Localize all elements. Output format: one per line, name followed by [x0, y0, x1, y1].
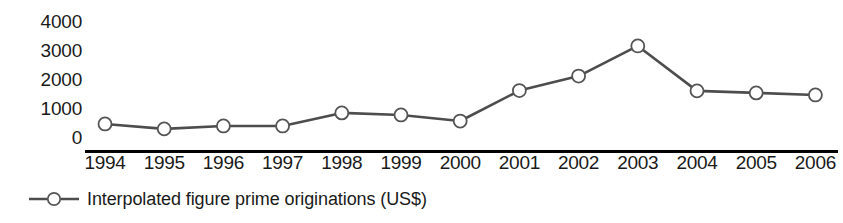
data-point-1998 — [335, 106, 348, 119]
x-tick-label-1996: 1996 — [193, 152, 253, 174]
y-tick-label-0: 0 — [26, 128, 82, 147]
x-tick-label-1994: 1994 — [75, 152, 135, 174]
data-point-2005 — [750, 86, 763, 99]
data-point-2004 — [691, 84, 704, 97]
data-point-1996 — [217, 119, 230, 132]
data-point-2002 — [572, 70, 585, 83]
data-point-1995 — [158, 122, 171, 135]
data-point-2001 — [513, 84, 526, 97]
data-point-1997 — [276, 119, 289, 132]
x-tick-label-2002: 2002 — [549, 152, 609, 174]
y-tick-label-2000: 2000 — [26, 70, 82, 89]
line-chart-svg — [0, 0, 843, 165]
y-axis-tick-labels: 4000 3000 2000 1000 0 — [26, 0, 82, 165]
data-point-1994 — [99, 117, 112, 130]
x-tick-label-2000: 2000 — [430, 152, 490, 174]
legend-label: Interpolated figure prime originations (… — [87, 189, 427, 209]
y-tick-label-3000: 3000 — [26, 41, 82, 60]
data-point-2003 — [631, 39, 644, 52]
x-axis-tick-labels: 1994199519961997199819992000200120022003… — [0, 152, 843, 178]
legend-marker-icon — [28, 190, 80, 208]
x-tick-label-2004: 2004 — [667, 152, 727, 174]
x-tick-label-1995: 1995 — [134, 152, 194, 174]
x-tick-label-1998: 1998 — [312, 152, 372, 174]
x-tick-label-2006: 2006 — [785, 152, 843, 174]
series-markers — [99, 39, 822, 135]
plot-area: 4000 3000 2000 1000 0 — [0, 0, 843, 165]
x-tick-label-2001: 2001 — [489, 152, 549, 174]
data-point-2006 — [809, 88, 822, 101]
data-point-2000 — [454, 115, 467, 128]
x-tick-label-1999: 1999 — [371, 152, 431, 174]
chart-figure: 4000 3000 2000 1000 0 199419951996199719… — [0, 0, 843, 223]
data-point-1999 — [395, 108, 408, 121]
x-tick-label-2005: 2005 — [726, 152, 786, 174]
x-tick-label-2003: 2003 — [608, 152, 668, 174]
y-tick-label-1000: 1000 — [26, 99, 82, 118]
chart-legend: Interpolated figure prime originations (… — [28, 186, 427, 212]
x-tick-label-1997: 1997 — [253, 152, 313, 174]
y-tick-label-4000: 4000 — [26, 12, 82, 31]
